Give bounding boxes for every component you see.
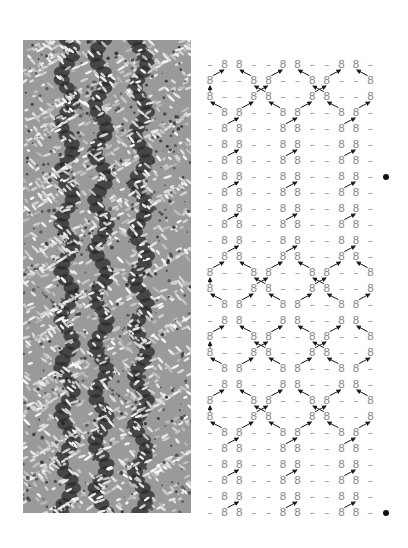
knit-symbol: 8 xyxy=(233,123,245,135)
knit-symbol: 8 xyxy=(233,187,245,199)
knit-symbol: 8 xyxy=(233,363,245,375)
knit-symbol: 8 xyxy=(306,411,318,423)
knit-symbol: 8 xyxy=(335,139,347,151)
purl-symbol: – xyxy=(262,235,274,247)
knit-symbol: 8 xyxy=(248,411,260,423)
knit-symbol: 8 xyxy=(292,491,304,503)
knit-symbol: 8 xyxy=(219,315,231,327)
knit-symbol: 8 xyxy=(262,75,274,87)
knit-symbol: 8 xyxy=(292,363,304,375)
purl-symbol: – xyxy=(204,427,216,439)
knit-symbol: 8 xyxy=(365,347,377,359)
knit-symbol: 8 xyxy=(219,507,231,519)
purl-symbol: – xyxy=(306,59,318,71)
purl-symbol: – xyxy=(219,75,231,87)
purl-symbol: – xyxy=(350,283,362,295)
purl-symbol: – xyxy=(204,203,216,215)
purl-symbol: – xyxy=(306,171,318,183)
knit-symbol: 8 xyxy=(350,427,362,439)
purl-symbol: – xyxy=(204,171,216,183)
purl-symbol: – xyxy=(233,283,245,295)
knit-symbol: 8 xyxy=(292,219,304,231)
purl-symbol: – xyxy=(365,299,377,311)
purl-symbol: – xyxy=(365,59,377,71)
knit-symbol: 8 xyxy=(262,411,274,423)
purl-symbol: – xyxy=(248,427,260,439)
purl-symbol: – xyxy=(262,491,274,503)
knit-symbol: 8 xyxy=(321,331,333,343)
purl-symbol: – xyxy=(365,443,377,455)
knitted-swatch-photo xyxy=(23,40,191,513)
knit-symbol: 8 xyxy=(292,315,304,327)
knit-symbol: 8 xyxy=(219,203,231,215)
knit-symbol: 8 xyxy=(292,507,304,519)
purl-symbol: – xyxy=(306,219,318,231)
knit-symbol: 8 xyxy=(365,267,377,279)
purl-symbol: – xyxy=(204,155,216,167)
purl-symbol: – xyxy=(335,411,347,423)
purl-symbol: – xyxy=(248,315,260,327)
knit-symbol: 8 xyxy=(335,59,347,71)
purl-symbol: – xyxy=(292,283,304,295)
purl-symbol: – xyxy=(306,235,318,247)
purl-symbol: – xyxy=(248,379,260,391)
purl-symbol: – xyxy=(262,427,274,439)
purl-symbol: – xyxy=(306,155,318,167)
knit-symbol: 8 xyxy=(335,251,347,263)
purl-symbol: – xyxy=(306,299,318,311)
knit-symbol: 8 xyxy=(335,155,347,167)
purl-symbol: – xyxy=(335,283,347,295)
purl-symbol: – xyxy=(262,155,274,167)
knit-symbol: 8 xyxy=(219,251,231,263)
purl-symbol: – xyxy=(262,443,274,455)
knit-symbol: 8 xyxy=(306,283,318,295)
purl-symbol: – xyxy=(292,347,304,359)
knit-symbol: 8 xyxy=(233,379,245,391)
knit-symbol: 8 xyxy=(204,395,216,407)
purl-symbol: – xyxy=(204,363,216,375)
knit-symbol: 8 xyxy=(350,123,362,135)
knit-symbol: 8 xyxy=(204,411,216,423)
knit-symbol: 8 xyxy=(204,331,216,343)
purl-symbol: – xyxy=(306,507,318,519)
knit-symbol: 8 xyxy=(335,443,347,455)
purl-symbol: – xyxy=(262,107,274,119)
purl-symbol: – xyxy=(204,235,216,247)
purl-symbol: – xyxy=(321,123,333,135)
purl-symbol: – xyxy=(365,475,377,487)
purl-symbol: – xyxy=(321,219,333,231)
knit-symbol: 8 xyxy=(277,59,289,71)
knit-symbol: 8 xyxy=(350,187,362,199)
purl-symbol: – xyxy=(292,395,304,407)
knit-symbol: 8 xyxy=(219,107,231,119)
knit-symbol: 8 xyxy=(277,299,289,311)
knit-symbol: 8 xyxy=(335,187,347,199)
knit-symbol: 8 xyxy=(292,187,304,199)
knit-symbol: 8 xyxy=(292,203,304,215)
purl-symbol: – xyxy=(248,203,260,215)
purl-symbol: – xyxy=(277,395,289,407)
purl-symbol: – xyxy=(335,91,347,103)
purl-symbol: – xyxy=(248,491,260,503)
purl-symbol: – xyxy=(204,123,216,135)
knit-symbol: 8 xyxy=(292,107,304,119)
knit-symbol: 8 xyxy=(350,107,362,119)
purl-symbol: – xyxy=(321,171,333,183)
purl-symbol: – xyxy=(219,395,231,407)
knit-symbol: 8 xyxy=(350,155,362,167)
knit-symbol: 8 xyxy=(350,139,362,151)
knit-symbol: 8 xyxy=(350,379,362,391)
purl-symbol: – xyxy=(248,251,260,263)
knit-symbol: 8 xyxy=(306,331,318,343)
purl-symbol: – xyxy=(365,187,377,199)
purl-symbol: – xyxy=(335,395,347,407)
purl-symbol: – xyxy=(233,267,245,279)
purl-symbol: – xyxy=(306,379,318,391)
purl-symbol: – xyxy=(204,251,216,263)
knit-symbol: 8 xyxy=(233,235,245,247)
knit-symbol: 8 xyxy=(248,395,260,407)
knit-symbol: 8 xyxy=(350,251,362,263)
purl-symbol: – xyxy=(248,123,260,135)
purl-symbol: – xyxy=(321,427,333,439)
purl-symbol: – xyxy=(277,347,289,359)
